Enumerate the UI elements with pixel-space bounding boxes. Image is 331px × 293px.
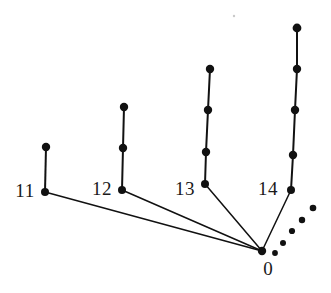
- node-dot-leg-14-3: [293, 65, 301, 73]
- stem-edge-leg-13-0: [205, 152, 206, 184]
- leg-label-leg-11: 11: [15, 181, 34, 200]
- ellipsis-dot-3: [299, 217, 305, 223]
- node-dot-leg-14-1: [289, 151, 297, 159]
- node-dot-leg-14-0: [287, 186, 295, 194]
- spoke-edge-leg-12: [122, 190, 262, 251]
- figure-canvas: 111213140: [0, 0, 331, 293]
- node-dot-leg-13-1: [202, 148, 210, 156]
- stem-edge-leg-14-0: [291, 155, 293, 190]
- node-dots-group: [41, 24, 301, 256]
- ellipsis-dot-4: [310, 205, 317, 212]
- stem-edge-leg-14-2: [295, 69, 297, 110]
- leg-label-leg-12: 12: [92, 179, 112, 198]
- stem-edge-leg-12-0: [122, 148, 123, 190]
- node-dot-leg-11-0: [41, 188, 49, 196]
- stem-edge-leg-13-2: [208, 69, 210, 110]
- node-dot-leg-14-4: [293, 24, 302, 33]
- stem-edge-leg-14-1: [293, 110, 295, 155]
- node-dot-leg-13-2: [204, 106, 212, 114]
- hub-node-dot: [258, 247, 266, 255]
- scan-speck-group: [233, 15, 235, 17]
- node-dot-leg-12-1: [119, 144, 127, 152]
- hub-label-0: 0: [263, 259, 273, 278]
- node-dot-leg-11-1: [42, 143, 50, 151]
- spoke-edge-leg-14: [262, 190, 291, 251]
- graph-svg: [0, 0, 331, 293]
- node-dot-leg-13-0: [201, 180, 209, 188]
- scan-speck: [233, 15, 235, 17]
- spoke-edge-leg-13: [205, 184, 262, 251]
- ellipsis-dot-1: [280, 240, 286, 246]
- node-dot-leg-14-2: [291, 106, 299, 114]
- stem-edge-leg-11-0: [45, 147, 46, 192]
- stem-edge-leg-13-1: [206, 110, 208, 152]
- leg-label-leg-14: 14: [258, 179, 278, 198]
- node-dot-leg-13-3: [206, 65, 214, 73]
- ellipsis-dot-2: [289, 228, 295, 234]
- ellipsis-dot-0: [272, 250, 278, 256]
- node-dot-leg-12-2: [120, 103, 128, 111]
- stem-edge-leg-12-1: [123, 107, 124, 148]
- leg-label-leg-13: 13: [175, 179, 195, 198]
- node-dot-leg-12-0: [118, 186, 126, 194]
- spoke-edges-group: [45, 184, 291, 251]
- leg-stems-group: [45, 28, 297, 192]
- spoke-edge-leg-11: [45, 192, 262, 251]
- ellipsis-dots-group: [272, 205, 316, 256]
